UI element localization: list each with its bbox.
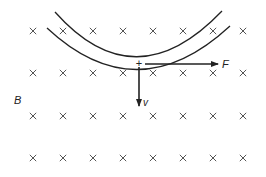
field-into-page-x-icon [90, 70, 96, 76]
magnetic-field-x-marks [30, 28, 246, 161]
field-into-page-x-icon [60, 113, 66, 119]
field-into-page-x-icon [150, 113, 156, 119]
field-into-page-x-icon [180, 155, 186, 161]
magnetic-field-label: B [14, 94, 21, 106]
field-into-page-x-icon [150, 155, 156, 161]
field-into-page-x-icon [240, 155, 246, 161]
field-into-page-x-icon [120, 113, 126, 119]
field-into-page-x-icon [210, 113, 216, 119]
field-into-page-x-icon [150, 70, 156, 76]
field-into-page-x-icon [180, 70, 186, 76]
field-into-page-x-icon [120, 28, 126, 34]
trajectory-arc-outer [55, 11, 222, 57]
field-into-page-x-icon [30, 70, 36, 76]
field-into-page-x-icon [240, 28, 246, 34]
field-into-page-x-icon [30, 113, 36, 119]
field-into-page-x-icon [120, 155, 126, 161]
field-into-page-x-icon [180, 113, 186, 119]
field-into-page-x-icon [210, 155, 216, 161]
field-into-page-x-icon [90, 113, 96, 119]
field-into-page-x-icon [240, 113, 246, 119]
field-into-page-x-icon [210, 70, 216, 76]
field-into-page-x-icon [30, 155, 36, 161]
field-into-page-x-icon [60, 155, 66, 161]
magnetic-field-diagram: + F v B [0, 0, 266, 177]
field-into-page-x-icon [30, 28, 36, 34]
field-into-page-x-icon [120, 70, 126, 76]
field-into-page-x-icon [60, 70, 66, 76]
velocity-label: v [143, 97, 149, 108]
field-into-page-x-icon [240, 70, 246, 76]
field-into-page-x-icon [150, 28, 156, 34]
positive-charge: + [136, 57, 142, 69]
field-into-page-x-icon [60, 28, 66, 34]
force-label: F [222, 58, 230, 70]
field-into-page-x-icon [210, 28, 216, 34]
field-into-page-x-icon [180, 28, 186, 34]
field-into-page-x-icon [90, 28, 96, 34]
field-into-page-x-icon [90, 155, 96, 161]
